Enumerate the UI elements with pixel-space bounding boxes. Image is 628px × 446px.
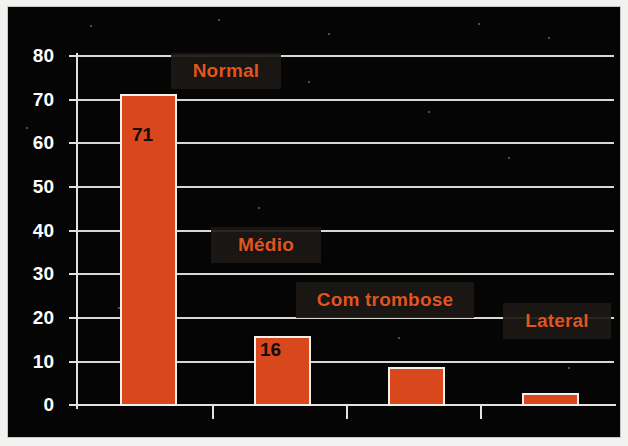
annotation-com-trombose: Com trombose xyxy=(296,282,474,318)
noise-speck xyxy=(398,337,400,339)
noise-speck xyxy=(428,111,430,113)
bar-value-label-medio: 16 xyxy=(260,340,281,359)
y-axis-label-30: 30 xyxy=(8,264,54,283)
annotation-lateral: Lateral xyxy=(503,303,611,339)
y-axis-label-80: 80 xyxy=(8,46,54,65)
y-tick-70 xyxy=(69,99,78,101)
bar-lateral[interactable] xyxy=(522,393,579,406)
x-tick-2 xyxy=(346,406,348,419)
noise-speck xyxy=(548,37,550,39)
noise-speck xyxy=(26,127,28,129)
y-axis-label-40: 40 xyxy=(8,221,54,240)
y-tick-80 xyxy=(69,55,78,57)
gridline-80 xyxy=(78,55,614,57)
noise-speck xyxy=(478,23,480,25)
y-axis-label-70: 70 xyxy=(8,90,54,109)
y-tick-30 xyxy=(69,273,78,275)
y-axis-label-50: 50 xyxy=(8,177,54,196)
x-tick-3 xyxy=(480,406,482,419)
noise-speck xyxy=(258,207,260,209)
bar-value-label-normal: 71 xyxy=(132,125,153,144)
y-axis-label-10: 10 xyxy=(8,352,54,371)
noise-speck xyxy=(568,367,570,369)
x-tick-1 xyxy=(212,406,214,419)
y-axis-label-0: 0 xyxy=(8,395,54,414)
bar-com-trombose[interactable] xyxy=(388,367,445,406)
noise-speck xyxy=(308,81,310,83)
y-tick-40 xyxy=(69,230,78,232)
y-tick-50 xyxy=(69,186,78,188)
chart-plot-canvas: 80 70 60 50 40 30 20 10 0 71 16 Normal M… xyxy=(7,6,621,438)
y-tick-20 xyxy=(69,317,78,319)
annotation-normal: Normal xyxy=(171,53,281,89)
noise-speck xyxy=(508,157,510,159)
annotation-medio: Médio xyxy=(211,227,321,263)
bar-chart-figure: 80 70 60 50 40 30 20 10 0 71 16 Normal M… xyxy=(0,0,628,446)
y-tick-0 xyxy=(69,404,78,406)
noise-speck xyxy=(218,19,220,21)
y-axis-label-60: 60 xyxy=(8,133,54,152)
y-tick-60 xyxy=(69,142,78,144)
noise-speck xyxy=(328,33,330,35)
y-axis-label-20: 20 xyxy=(8,308,54,327)
y-tick-10 xyxy=(69,361,78,363)
noise-speck xyxy=(90,25,92,27)
